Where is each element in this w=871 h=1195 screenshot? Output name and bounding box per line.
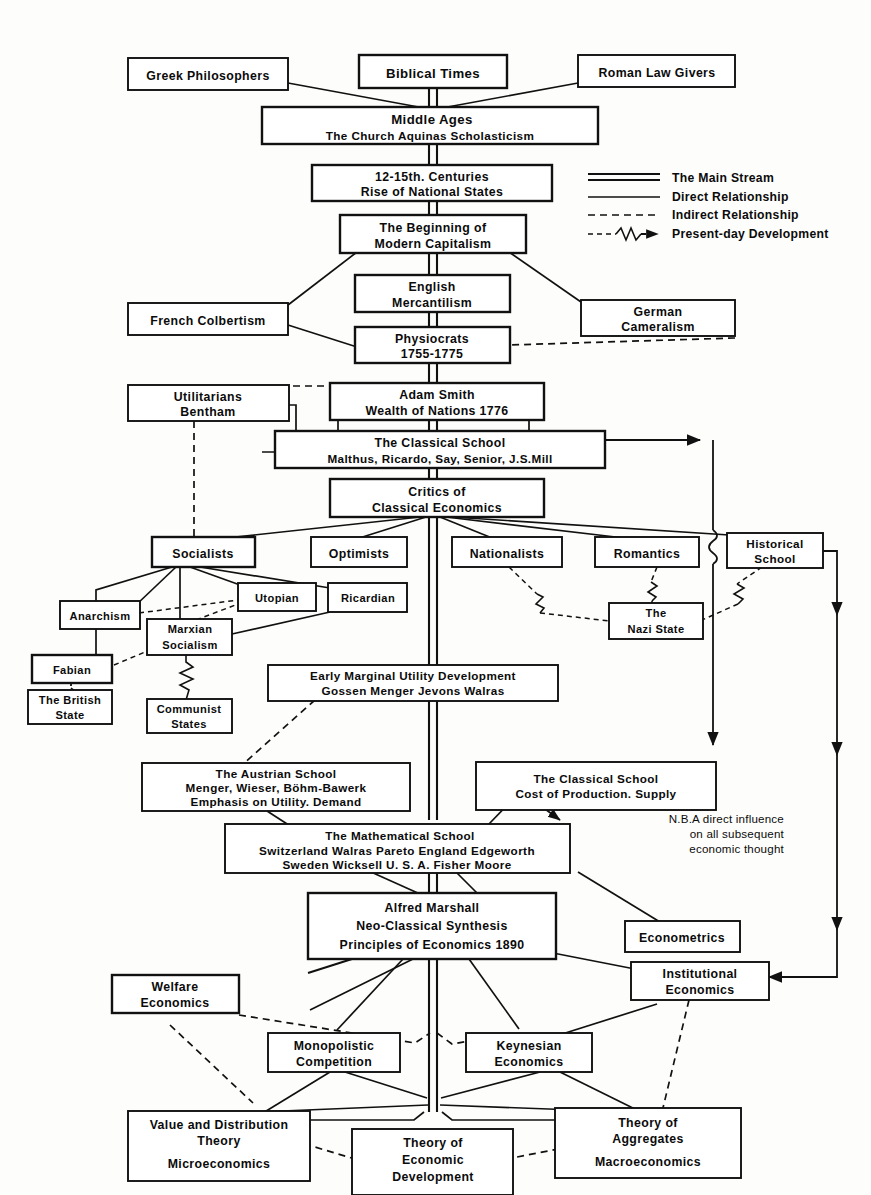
node-sublabel: Economics xyxy=(140,996,209,1010)
node-alfred-marshall[interactable]: Alfred Marshall Neo-Classical Synthesis … xyxy=(308,893,556,959)
node-sublabel: School xyxy=(754,552,795,565)
node-beginning-modern-capitalism[interactable]: The Beginning of Modern Capitalism xyxy=(340,215,526,253)
node-sublabel: Menger, Wieser, Böhm-Bawerk xyxy=(186,781,367,794)
node-optimists[interactable]: Optimists xyxy=(311,537,407,567)
node-austrian-school[interactable]: The Austrian School Menger, Wieser, Böhm… xyxy=(142,763,410,811)
node-label: Early Marginal Utility Development xyxy=(310,669,516,682)
node-label: French Colbertism xyxy=(150,314,265,328)
node-econometrics[interactable]: Econometrics xyxy=(625,921,740,952)
note-line-1: N.B.A direct influence xyxy=(669,812,784,825)
node-label: The British xyxy=(39,694,101,706)
connector-historical-right-stream xyxy=(769,551,837,977)
node-anarchism[interactable]: Anarchism xyxy=(60,601,140,629)
node-marxian-socialism[interactable]: Marxian Socialism xyxy=(147,619,232,655)
node-label: Biblical Times xyxy=(386,66,480,81)
node-label: The Classical School xyxy=(534,772,659,785)
node-early-marginal-utility[interactable]: Early Marginal Utility Development Gosse… xyxy=(268,665,558,701)
node-middle-ages[interactable]: Middle Ages The Church Aquinas Scholasti… xyxy=(262,107,598,144)
node-utopian[interactable]: Utopian xyxy=(238,583,316,611)
node-german-cameralism[interactable]: German Cameralism xyxy=(581,300,735,336)
node-label: Nationalists xyxy=(470,547,545,561)
economic-thought-diagram-page: Biblical Times Greek Philosophers Roman … xyxy=(0,0,871,1195)
node-sublabel: Economic xyxy=(402,1153,464,1167)
legend-label-indirect: Indirect Relationship xyxy=(672,208,799,222)
node-adam-smith[interactable]: Adam Smith Wealth of Nations 1776 xyxy=(330,383,544,420)
node-classical-school-supply[interactable]: The Classical School Cost of Production.… xyxy=(476,762,716,810)
node-sublabel: Malthus, Ricardo, Say, Senior, J.S.Mill xyxy=(327,452,552,465)
node-sublabel-2: Principles of Economics 1890 xyxy=(340,938,525,952)
node-sublabel: Economics xyxy=(665,983,734,997)
node-label: Greek Philosophers xyxy=(146,69,269,83)
node-value-distribution-theory[interactable]: Value and Distribution Theory Microecono… xyxy=(128,1111,310,1181)
node-romantics[interactable]: Romantics xyxy=(595,537,699,567)
node-utilitarians-bentham[interactable]: Utilitarians Bentham xyxy=(128,385,289,421)
node-sublabel: Neo-Classical Synthesis xyxy=(356,919,507,933)
node-label: Theory of xyxy=(618,1116,678,1130)
diagram-canvas: Biblical Times Greek Philosophers Roman … xyxy=(0,0,871,1195)
legend-swatch-main-stream xyxy=(588,174,660,180)
node-sublabel: Mercantilism xyxy=(392,296,472,310)
node-roman-law-givers[interactable]: Roman Law Givers xyxy=(578,55,735,87)
node-sublabel: 1755-1775 xyxy=(401,347,463,361)
node-label: German xyxy=(634,305,683,319)
legend: The Main Stream Direct Relationship Indi… xyxy=(588,171,829,241)
node-label: The Mathematical School xyxy=(325,829,474,842)
node-fabian[interactable]: Fabian xyxy=(32,655,112,683)
node-label: 12-15th. Centuries xyxy=(375,170,489,184)
node-label: Romantics xyxy=(614,547,680,561)
node-sublabel: Wealth of Nations 1776 xyxy=(365,404,508,418)
legend-swatch-present-day xyxy=(588,228,658,240)
node-label: Utopian xyxy=(255,592,299,604)
node-physiocrats[interactable]: Physiocrats 1755-1775 xyxy=(355,327,510,363)
node-mathematical-school[interactable]: The Mathematical School Switzerland Walr… xyxy=(225,824,570,873)
node-classical-school[interactable]: The Classical School Malthus, Ricardo, S… xyxy=(275,431,605,468)
node-nazi-state[interactable]: The Nazi State xyxy=(609,603,703,639)
node-label: Historical xyxy=(746,537,803,550)
node-sublabel: Cameralism xyxy=(621,320,695,334)
legend-label-present-day: Present-day Development xyxy=(672,227,829,241)
node-sublabel-2: Development xyxy=(392,1170,474,1184)
node-sublabel-2: Emphasis on Utility. Demand xyxy=(191,795,362,808)
node-historical-school[interactable]: Historical School xyxy=(727,533,823,568)
node-sublabel-2: Sweden Wicksell U. S. A. Fisher Moore xyxy=(282,858,511,871)
node-keynesian-economics[interactable]: Keynesian Economics xyxy=(466,1033,592,1072)
node-label: Econometrics xyxy=(639,931,725,945)
connector-marxian-communist xyxy=(180,655,193,700)
node-institutional-economics[interactable]: Institutional Economics xyxy=(631,962,769,1000)
node-sublabel-2: Microeconomics xyxy=(168,1157,271,1171)
node-label: Ricardian xyxy=(341,592,395,604)
node-biblical-times[interactable]: Biblical Times xyxy=(359,55,507,88)
node-label: Alfred Marshall xyxy=(385,901,480,915)
node-sublabel: Economics xyxy=(494,1055,563,1069)
node-label: Socialists xyxy=(172,547,233,561)
node-label: Middle Ages xyxy=(391,112,473,127)
node-sublabel: Cost of Production. Supply xyxy=(515,787,676,800)
node-greek-philosophers[interactable]: Greek Philosophers xyxy=(128,58,288,90)
node-sublabel: Theory xyxy=(197,1134,240,1148)
node-critics-classical-economics[interactable]: Critics of Classical Economics xyxy=(330,479,544,517)
node-label: Fabian xyxy=(53,664,91,676)
node-label: Physiocrats xyxy=(395,332,469,346)
connector-marginal-austrian xyxy=(242,700,315,765)
legend-label-direct: Direct Relationship xyxy=(672,190,789,204)
node-english-mercantilism[interactable]: English Mercantilism xyxy=(355,275,510,312)
node-label: The Beginning of xyxy=(380,221,487,235)
node-label: Monopolistic xyxy=(294,1039,375,1053)
legend-label-main-stream: The Main Stream xyxy=(672,171,774,185)
node-label: Adam Smith xyxy=(399,388,475,402)
node-nationalists[interactable]: Nationalists xyxy=(452,537,562,567)
node-theory-aggregates[interactable]: Theory of Aggregates Macroeconomics xyxy=(555,1108,741,1178)
node-british-state[interactable]: The British State xyxy=(28,690,112,724)
node-sublabel: Nazi State xyxy=(627,623,684,635)
node-label: Anarchism xyxy=(70,610,131,622)
node-welfare-economics[interactable]: Welfare Economics xyxy=(112,975,239,1013)
node-label: Welfare xyxy=(152,980,199,994)
node-french-colbertism[interactable]: French Colbertism xyxy=(128,303,288,335)
node-theory-economic-development[interactable]: Theory of Economic Development xyxy=(352,1129,513,1195)
node-ricardian[interactable]: Ricardian xyxy=(328,583,407,612)
node-socialists[interactable]: Socialists xyxy=(152,537,255,567)
node-monopolistic-competition[interactable]: Monopolistic Competition xyxy=(268,1033,400,1072)
node-sublabel: Aggregates xyxy=(612,1132,684,1146)
node-communist-states[interactable]: Communist States xyxy=(147,699,232,733)
node-12-15th-centuries[interactable]: 12-15th. Centuries Rise of National Stat… xyxy=(312,165,552,201)
